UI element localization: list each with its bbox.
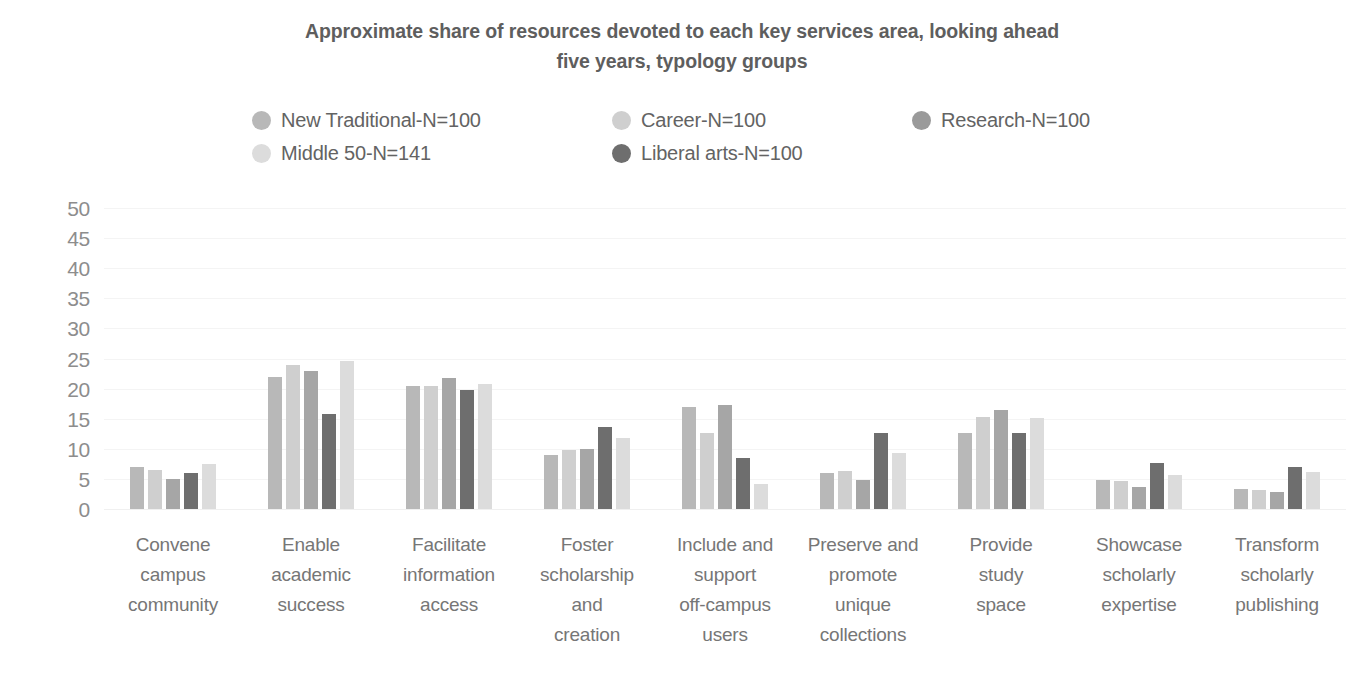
- chart-title-line-2: five years, typology groups: [160, 46, 1204, 76]
- y-axis-tick-label: 15: [67, 408, 90, 429]
- bar[interactable]: [1012, 433, 1026, 509]
- bar[interactable]: [478, 384, 492, 509]
- bar[interactable]: [1114, 481, 1128, 509]
- bar[interactable]: [268, 377, 282, 509]
- x-axis-label-line: study: [936, 560, 1066, 590]
- bar[interactable]: [442, 378, 456, 509]
- x-axis-label-line: space: [936, 590, 1066, 620]
- bar[interactable]: [166, 479, 180, 509]
- bar[interactable]: [976, 417, 990, 509]
- bar[interactable]: [994, 410, 1008, 509]
- bar[interactable]: [1288, 467, 1302, 509]
- bar[interactable]: [820, 473, 834, 509]
- x-axis-label-line: Convene: [108, 530, 238, 560]
- plot-area: [104, 208, 1346, 509]
- chart-title-line-1: Approximate share of resources devoted t…: [160, 16, 1204, 46]
- bar-group: [794, 208, 932, 509]
- bar[interactable]: [1096, 480, 1110, 509]
- bar[interactable]: [874, 433, 888, 509]
- bar[interactable]: [424, 386, 438, 509]
- bar-group: [932, 208, 1070, 509]
- x-axis-category-label: Facilitateinformationaccess: [380, 530, 518, 650]
- legend-swatch-icon: [612, 111, 631, 130]
- y-axis: 50454035302520151050: [28, 196, 90, 509]
- x-axis-label-line: success: [246, 590, 376, 620]
- chart-title: Approximate share of resources devoted t…: [160, 16, 1204, 76]
- x-axis-label-line: access: [384, 590, 514, 620]
- bar[interactable]: [754, 484, 768, 509]
- plot-wrapper: 50454035302520151050: [0, 196, 1364, 526]
- legend-label: Research-N=100: [941, 109, 1090, 132]
- bar[interactable]: [736, 458, 750, 509]
- y-axis-tick-label: 45: [67, 228, 90, 249]
- x-axis-category-label: Enableacademicsuccess: [242, 530, 380, 650]
- x-axis-label-line: scholarship: [522, 560, 652, 590]
- legend-label: Liberal arts-N=100: [641, 142, 803, 165]
- x-axis-label-line: users: [660, 620, 790, 650]
- bar[interactable]: [1234, 489, 1248, 509]
- bar[interactable]: [682, 407, 696, 509]
- x-axis-label-line: off-campus: [660, 590, 790, 620]
- bar[interactable]: [718, 405, 732, 509]
- y-axis-tick-label: 10: [67, 438, 90, 459]
- bar[interactable]: [700, 433, 714, 509]
- x-axis-category-label: Showcasescholarlyexpertise: [1070, 530, 1208, 650]
- y-axis-tick-label: 50: [67, 198, 90, 219]
- x-axis-label-line: Facilitate: [384, 530, 514, 560]
- bar[interactable]: [1132, 487, 1146, 509]
- legend-swatch-icon: [252, 111, 271, 130]
- bar[interactable]: [286, 365, 300, 509]
- bar[interactable]: [184, 473, 198, 509]
- bar[interactable]: [460, 390, 474, 509]
- legend-item[interactable]: Research-N=100: [912, 109, 1172, 132]
- x-axis-label-line: support: [660, 560, 790, 590]
- chart-container: Approximate share of resources devoted t…: [0, 0, 1364, 673]
- bar[interactable]: [856, 480, 870, 509]
- bar[interactable]: [1306, 472, 1320, 509]
- x-axis-category-label: Preserve andpromoteuniquecollections: [794, 530, 932, 650]
- bar[interactable]: [202, 464, 216, 509]
- x-axis-label-line: collections: [798, 620, 928, 650]
- bar[interactable]: [562, 450, 576, 509]
- x-axis-label-line: campus: [108, 560, 238, 590]
- bar[interactable]: [1030, 418, 1044, 510]
- bar[interactable]: [148, 470, 162, 509]
- bar[interactable]: [580, 449, 594, 509]
- bar[interactable]: [304, 371, 318, 509]
- x-axis-label-line: Showcase: [1074, 530, 1204, 560]
- bar[interactable]: [130, 467, 144, 509]
- gridline: [104, 509, 1346, 510]
- x-axis-category-label: Fosterscholarshipandcreation: [518, 530, 656, 650]
- x-axis-label-line: Provide: [936, 530, 1066, 560]
- legend-item[interactable]: Career-N=100: [612, 109, 912, 132]
- x-axis-label-line: expertise: [1074, 590, 1204, 620]
- bar-group: [242, 208, 380, 509]
- y-axis-tick-label: 30: [67, 318, 90, 339]
- bar[interactable]: [1168, 475, 1182, 509]
- bar[interactable]: [838, 471, 852, 509]
- legend-item[interactable]: Liberal arts-N=100: [612, 142, 912, 165]
- bar[interactable]: [892, 453, 906, 509]
- x-axis-label-line: publishing: [1212, 590, 1342, 620]
- y-axis-tick-label: 0: [79, 499, 90, 520]
- bar[interactable]: [958, 433, 972, 509]
- x-axis-label-line: Foster: [522, 530, 652, 560]
- bar[interactable]: [340, 361, 354, 509]
- bar[interactable]: [1252, 490, 1266, 509]
- x-axis-label-line: scholarly: [1212, 560, 1342, 590]
- bar[interactable]: [322, 414, 336, 509]
- legend-item[interactable]: New Traditional-N=100: [252, 109, 612, 132]
- legend-item[interactable]: Middle 50-N=141: [252, 142, 612, 165]
- bar[interactable]: [616, 438, 630, 509]
- bar[interactable]: [1270, 492, 1284, 509]
- bar-group: [1208, 208, 1346, 509]
- bar[interactable]: [1150, 463, 1164, 509]
- bar[interactable]: [598, 427, 612, 509]
- x-axis-label-line: unique: [798, 590, 928, 620]
- bar[interactable]: [544, 455, 558, 509]
- x-axis-category-label: Convenecampuscommunity: [104, 530, 242, 650]
- bar[interactable]: [406, 386, 420, 509]
- y-axis-tick-label: 5: [79, 468, 90, 489]
- y-axis-tick-label: 35: [67, 288, 90, 309]
- bar-group: [518, 208, 656, 509]
